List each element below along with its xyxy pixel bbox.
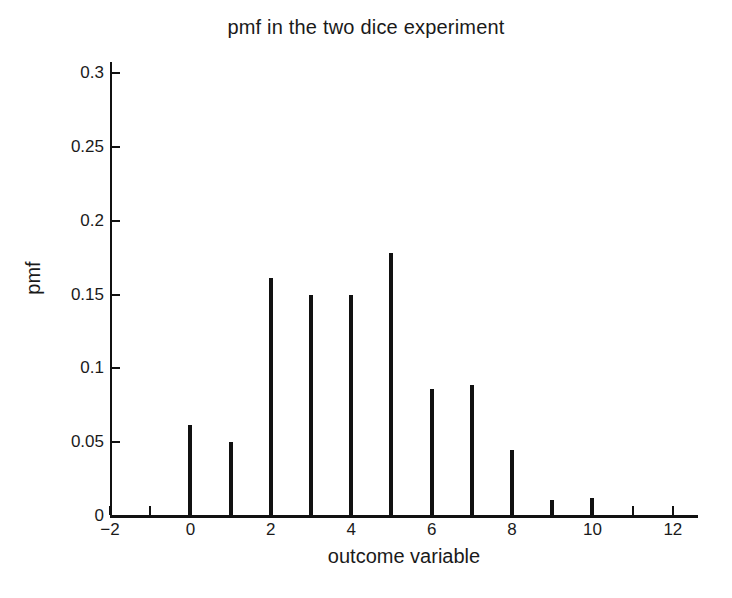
x-tick-label: 12 [663,520,682,540]
chart-title: pmf in the two dice experiment [0,16,732,39]
x-tick-label: 2 [266,520,275,540]
stem-bar [349,295,353,516]
stem-bar [309,295,313,516]
y-tick-label: 0.25 [71,137,104,157]
y-tick-label: 0.05 [71,432,104,452]
y-tick-label: 0.2 [80,211,104,231]
stem-bar [550,500,554,516]
stem-bar [590,498,594,516]
y-tick-label: 0.3 [80,63,104,83]
stem-bar [430,389,434,516]
x-tick-label: 0 [186,520,195,540]
stem-bar [229,442,233,516]
stem-bar [470,385,474,516]
x-tick-label: 4 [346,520,355,540]
y-tick-label: 0.15 [71,285,104,305]
x-axis-label: outcome variable [110,545,698,568]
y-tick-label: 0.1 [80,358,104,378]
x-tick-label: 10 [583,520,602,540]
x-tick-label: 8 [507,520,516,540]
stem-bar [510,450,514,516]
chart-figure: pmf in the two dice experiment −20246810… [0,0,732,598]
x-tick-label: 6 [427,520,436,540]
stem-bar [389,253,393,516]
y-axis-label: pmf [22,261,45,294]
stem-bar [269,278,273,516]
y-tick-label: 0 [95,506,104,526]
y-axis-tick-labels: 00.050.10.150.20.250.3 [0,0,104,598]
plot-area [110,62,697,516]
stem-bar [188,425,192,517]
